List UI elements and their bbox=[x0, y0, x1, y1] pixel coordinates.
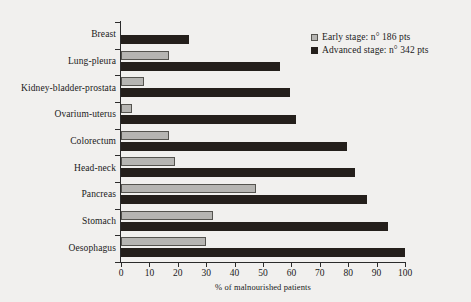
value-axis-tick bbox=[121, 263, 122, 267]
category-label: Stomach bbox=[4, 216, 116, 226]
category-label: Pancreas bbox=[4, 189, 116, 199]
bar-advanced-stage bbox=[121, 222, 388, 231]
value-axis-tick bbox=[149, 263, 150, 267]
value-axis-tick-label: 70 bbox=[305, 268, 335, 279]
value-axis-tick-label: 10 bbox=[134, 268, 164, 279]
bar-group bbox=[121, 129, 405, 156]
value-axis-tick bbox=[348, 263, 349, 267]
value-axis-tick bbox=[206, 263, 207, 267]
category-axis-tick bbox=[115, 22, 120, 23]
bar-advanced-stage bbox=[121, 88, 290, 97]
bar-advanced-stage bbox=[121, 248, 405, 257]
bar-early-stage bbox=[121, 77, 144, 86]
bar-group bbox=[121, 75, 405, 102]
value-axis-tick-label: 90 bbox=[362, 268, 392, 279]
value-axis-tick-label: 0 bbox=[106, 268, 136, 279]
x-axis-title: % of malnourished patients bbox=[121, 282, 405, 292]
value-axis-tick-label: 20 bbox=[163, 268, 193, 279]
value-axis-tick bbox=[178, 263, 179, 267]
legend-label: Early stage: n° 186 pts bbox=[322, 32, 410, 43]
value-axis-tick-label: 30 bbox=[191, 268, 221, 279]
bar-group bbox=[121, 209, 405, 236]
category-axis-tick bbox=[115, 102, 120, 103]
bar-early-stage bbox=[121, 184, 256, 193]
category-label: Breast bbox=[4, 29, 116, 39]
value-axis-tick bbox=[320, 263, 321, 267]
category-axis-labels: BreastLung-pleuraKidney-bladder-prostata… bbox=[0, 22, 116, 262]
value-axis-tick bbox=[235, 263, 236, 267]
value-axis-tick bbox=[377, 263, 378, 267]
bar-advanced-stage bbox=[121, 62, 280, 71]
category-label: Head-neck bbox=[4, 163, 116, 173]
bar-early-stage bbox=[121, 51, 169, 60]
bar-group bbox=[121, 102, 405, 129]
value-axis-tick-label: 100 bbox=[390, 268, 420, 279]
bar-advanced-stage bbox=[121, 35, 189, 44]
category-axis-tick bbox=[115, 262, 120, 263]
category-label: Oesophagus bbox=[4, 243, 116, 253]
bar-group bbox=[121, 155, 405, 182]
legend-swatch-early-icon bbox=[311, 34, 318, 41]
value-axis-tick-label: 60 bbox=[276, 268, 306, 279]
value-axis-tick bbox=[405, 263, 406, 267]
bar-group bbox=[121, 235, 405, 262]
category-axis-tick bbox=[115, 155, 120, 156]
bar-early-stage bbox=[121, 157, 175, 166]
category-axis-tick bbox=[115, 235, 120, 236]
value-axis-tick-label: 50 bbox=[248, 268, 278, 279]
bar-early-stage bbox=[121, 211, 213, 220]
legend-item: Early stage: n° 186 pts bbox=[311, 31, 471, 44]
value-axis-tick-labels: 0102030405060708090100 bbox=[0, 268, 471, 282]
plot-area bbox=[121, 22, 405, 262]
category-label: Lung-pleura bbox=[4, 56, 116, 66]
category-axis-tick bbox=[115, 129, 120, 130]
legend-swatch-advanced-icon bbox=[311, 47, 318, 54]
chart-legend: Early stage: n° 186 ptsAdvanced stage: n… bbox=[311, 31, 471, 57]
value-axis-tick bbox=[263, 263, 264, 267]
category-label: Colorectum bbox=[4, 136, 116, 146]
bar-group bbox=[121, 182, 405, 209]
category-label: Ovarium-uterus bbox=[4, 109, 116, 119]
legend-label: Advanced stage: n° 342 pts bbox=[322, 45, 429, 56]
bar-advanced-stage bbox=[121, 168, 355, 177]
category-axis-tick bbox=[115, 75, 120, 76]
bar-advanced-stage bbox=[121, 115, 296, 124]
legend-item: Advanced stage: n° 342 pts bbox=[311, 44, 471, 57]
bar-early-stage bbox=[121, 237, 206, 246]
category-axis-tick bbox=[115, 209, 120, 210]
category-axis-tick bbox=[115, 182, 120, 183]
value-axis-tick-label: 80 bbox=[333, 268, 363, 279]
category-axis-tick bbox=[115, 49, 120, 50]
value-axis-tick bbox=[291, 263, 292, 267]
bar-early-stage bbox=[121, 131, 169, 140]
category-label: Kidney-bladder-prostata bbox=[4, 83, 116, 93]
bar-early-stage bbox=[121, 104, 132, 113]
value-axis-tick-label: 40 bbox=[220, 268, 250, 279]
bar-chart: BreastLung-pleuraKidney-bladder-prostata… bbox=[0, 0, 471, 302]
bar-advanced-stage bbox=[121, 142, 347, 151]
bar-advanced-stage bbox=[121, 195, 367, 204]
